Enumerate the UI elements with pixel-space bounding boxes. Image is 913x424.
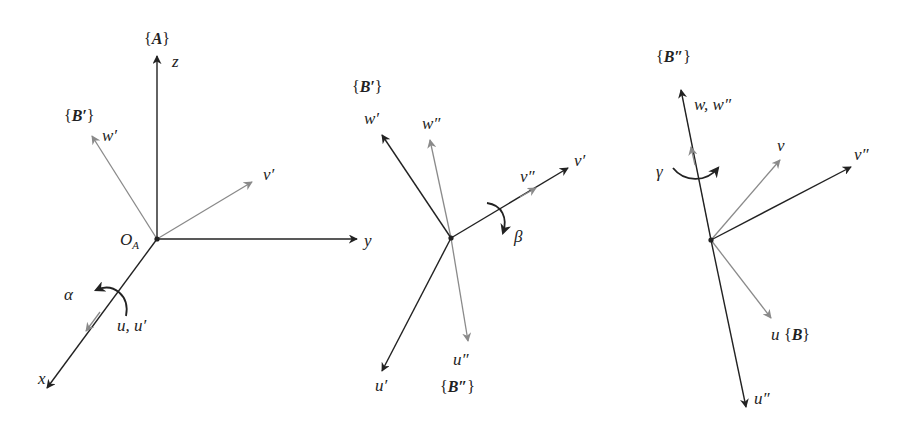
axis-label-y: y (362, 231, 372, 250)
axis-x (47, 239, 157, 388)
frame-label-B-double-prime-3: {B″} (656, 48, 691, 65)
axis-u-prime-2 (382, 238, 451, 371)
axis-label-u-double-prime-2: u″ (453, 350, 470, 369)
axis-v-prime-2 (451, 168, 568, 238)
axis-label-v-double-prime-2: v″ (520, 167, 536, 186)
axis-label-w-prime-2: w′ (364, 109, 379, 128)
axis-v-3 (711, 160, 780, 240)
axis-u-double-prime-3 (711, 240, 746, 407)
frame-label-B-double-prime-2: {B″} (440, 378, 475, 395)
frame-label-A: {A} (144, 30, 170, 47)
axis-v-double-prime-2 (520, 188, 536, 197)
origin-label: OA (120, 230, 139, 251)
rotation-label-beta: β (513, 227, 523, 246)
frame-label-B-3: {B} (784, 326, 810, 343)
axis-label-w-prime-1: w′ (102, 126, 117, 145)
frame-label-B-prime-1: {B′} (64, 107, 95, 124)
axis-w-prime-1 (92, 136, 157, 239)
axis-label-u-double-prime-3: u″ (754, 389, 771, 408)
rotation-arc-gamma (673, 168, 718, 179)
axis-v-prime-1 (157, 182, 252, 239)
frame-label-B-prime-2: {B′} (352, 78, 383, 95)
axis-label-u-prime-2: u′ (375, 376, 388, 395)
axis-label-v-3: v (777, 136, 785, 155)
axis-label-v-double-prime-3: v″ (854, 145, 870, 164)
axis-label-z: z (171, 52, 179, 71)
axis-label-w-w-double-prime: w, w″ (694, 95, 732, 114)
axis-u-double-prime-2 (451, 238, 468, 341)
axis-v-double-prime-3 (711, 167, 851, 240)
panel-3: {B″} w, w″ γ v v″ u {B} u″ (656, 48, 870, 408)
axis-w-prime-2 (382, 135, 451, 238)
axis-label-v-prime-2: v′ (574, 151, 586, 170)
rotation-label-alpha: α (64, 285, 74, 304)
rotation-diagram: {A} z {B′} w′ v′ OA y α u, u′ x {B′} w′ … (0, 0, 913, 424)
axis-label-u-u-prime: u, u′ (117, 316, 147, 335)
panel-1: {A} z {B′} w′ v′ OA y α u, u′ x (37, 30, 372, 388)
axis-label-u-3: u (771, 325, 780, 344)
axis-label-w-double-prime-2: w″ (422, 114, 441, 133)
origin-dot-2 (448, 235, 453, 240)
axis-label-x: x (37, 369, 46, 388)
origin-dot-1 (154, 236, 159, 241)
axis-u-3 (711, 240, 771, 318)
origin-dot-3 (708, 237, 713, 242)
rotation-label-gamma: γ (656, 162, 664, 181)
panel-2: {B′} w′ w″ v″ v′ β u′ u″ {B″} (352, 78, 586, 395)
axis-u-prime-1 (86, 312, 100, 331)
axis-label-v-prime-1: v′ (263, 165, 275, 184)
